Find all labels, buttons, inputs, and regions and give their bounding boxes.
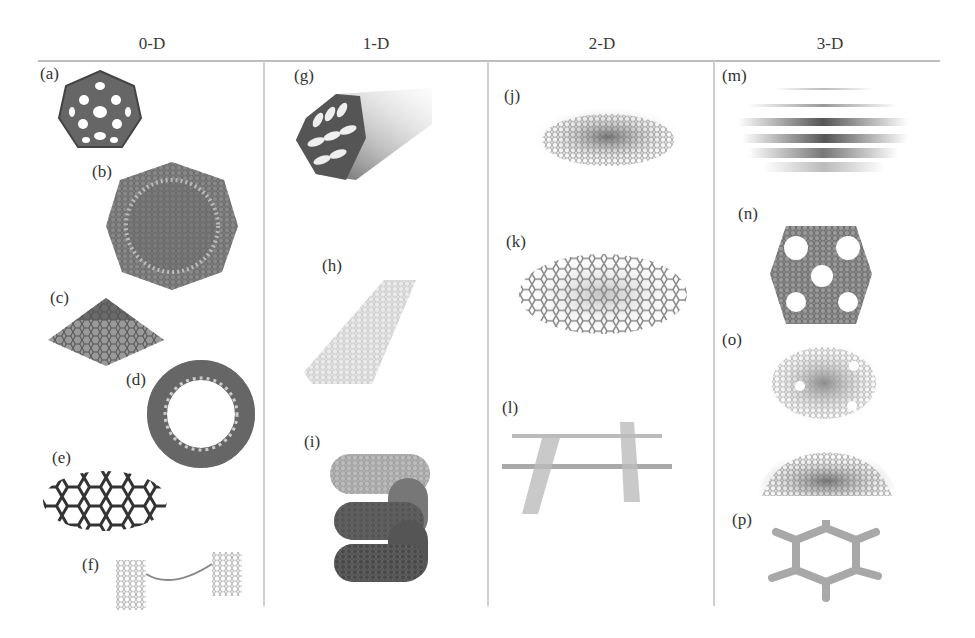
- column-header-2d: 2-D: [542, 34, 662, 54]
- nanotorus-figure: [146, 360, 256, 468]
- graphene-dot-figure: [40, 468, 170, 534]
- porous-carbon-figure-2: [752, 444, 902, 500]
- column-divider-2: [487, 61, 489, 606]
- column-header-1d: 1-D: [316, 34, 436, 54]
- panel-label-n: (n): [738, 204, 758, 224]
- panel-label-m: (m): [722, 66, 747, 86]
- panel-label-f: (f): [82, 555, 99, 575]
- nanocone-figure: [46, 296, 166, 368]
- header-divider: [38, 60, 940, 62]
- column-divider-1: [263, 61, 265, 606]
- panel-label-l: (l): [502, 398, 518, 418]
- panel-label-h: (h): [322, 256, 342, 276]
- helical-nanotube-figure: [328, 450, 438, 586]
- stacked-graphite-figure: [734, 84, 914, 180]
- panel-label-i: (i): [304, 432, 320, 452]
- panel-label-g: (g): [294, 66, 314, 86]
- crossed-nanoribbons-figure: [502, 420, 672, 520]
- fullerene-figure: [56, 68, 144, 152]
- panel-label-p: (p): [732, 510, 752, 530]
- porous-graphene-figure: [508, 248, 698, 340]
- porous-framework-figure: [766, 220, 876, 328]
- panel-label-d: (d): [126, 370, 146, 390]
- multiwall-nanotube-figure: [296, 84, 436, 190]
- nanotube-dumbbell-figure: [112, 550, 252, 612]
- column-header-0d: 0-D: [92, 34, 212, 54]
- column-divider-3: [713, 61, 715, 606]
- porous-carbon-figure-1: [762, 340, 886, 426]
- column-header-3d: 3-D: [770, 34, 890, 54]
- panel-label-e: (e): [52, 448, 71, 468]
- panel-label-o: (o): [722, 330, 742, 350]
- carbon-onion-figure: [104, 160, 240, 292]
- nanoribbon-figure: [302, 276, 426, 386]
- panel-label-j: (j): [504, 86, 520, 106]
- hexagonal-network-figure: [766, 520, 886, 602]
- graphene-sheet-figure: [528, 106, 688, 174]
